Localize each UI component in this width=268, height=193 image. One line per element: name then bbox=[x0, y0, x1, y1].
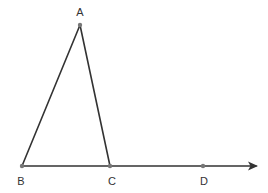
geometry-diagram bbox=[0, 0, 268, 193]
point-b bbox=[20, 164, 24, 168]
segment-ac bbox=[80, 25, 110, 166]
point-d bbox=[201, 164, 205, 168]
segment-ab bbox=[22, 25, 80, 166]
point-c bbox=[108, 164, 112, 168]
label-b: B bbox=[17, 176, 24, 187]
label-a: A bbox=[76, 7, 83, 18]
label-c: C bbox=[108, 176, 116, 187]
label-d: D bbox=[200, 176, 208, 187]
point-a bbox=[78, 23, 82, 27]
